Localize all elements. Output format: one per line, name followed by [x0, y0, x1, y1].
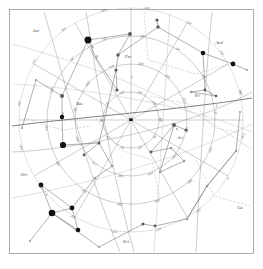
star-point: [246, 69, 248, 71]
coordinate-tick-label: 300°: [116, 202, 123, 207]
coordinate-tick-label: 170°: [31, 58, 38, 66]
star-point: [235, 150, 237, 152]
star-point: [204, 89, 207, 92]
star-point: [159, 171, 161, 173]
coordinate-tick-label: 150°: [146, 171, 154, 177]
coordinate-tick-label: 170°: [90, 160, 98, 167]
greek-star-label: γ: [131, 75, 133, 79]
coordinate-tick-label: 30°: [175, 46, 181, 52]
star-point: [170, 147, 173, 150]
greek-star-label: ζ: [216, 103, 218, 108]
star-point: [98, 246, 100, 248]
sky-map-canvas: 60°50°40°30°20°10°0°100°110°120°130°140°…: [0, 0, 263, 269]
coordinate-tick-label: 10°: [100, 117, 104, 122]
constellation-label-ce: Ce: [237, 205, 242, 210]
constellation-label-tri: Tri: [194, 93, 200, 98]
star-point: [206, 185, 209, 188]
star-point: [128, 32, 132, 36]
constellation-label-tau: Tau: [76, 101, 83, 106]
coordinate-tick-label: 200°: [144, 6, 151, 11]
star-point: [114, 68, 117, 71]
star-point: [141, 222, 144, 225]
constellation-label-ori: Ori: [21, 172, 28, 177]
constellation-label-eri: Eri: [122, 239, 130, 244]
star-point: [94, 177, 96, 179]
coordinate-tick-label: 120°: [110, 229, 117, 234]
coordinate-tick-label: 20°: [104, 134, 110, 140]
coordinate-tick-label: 40°: [137, 145, 143, 150]
greek-star-label: α: [92, 45, 94, 49]
constellation-label-aur: Aur: [32, 28, 40, 33]
coordinate-tick-label: 210°: [186, 20, 194, 27]
coordinate-tick-label: 50°: [151, 134, 157, 140]
constellation-label-per: Per: [124, 54, 132, 59]
coordinate-tick-label: 0°: [105, 100, 110, 105]
coordinate-tick-label: 210°: [108, 63, 116, 69]
star-point: [85, 37, 92, 44]
star-point: [190, 91, 193, 94]
coordinate-tick-label: 60°: [69, 55, 75, 61]
coordinate-tick-label: 240°: [238, 89, 243, 96]
star-point: [183, 160, 186, 163]
star-point: [231, 62, 236, 67]
coordinate-tick-label: 140°: [171, 153, 178, 161]
coordinate-tick-label: 150°: [19, 143, 24, 150]
star-point: [35, 79, 37, 81]
star-point: [98, 142, 101, 145]
coordinate-tick-label: 0°: [225, 176, 230, 181]
coordinate-tick-label: 130°: [69, 213, 77, 220]
star-point: [156, 25, 159, 28]
star-point: [155, 18, 158, 21]
pole-center-marker: [129, 118, 132, 121]
coordinate-tick-label: 330°: [44, 124, 49, 131]
star-point: [49, 210, 56, 217]
star-point: [239, 111, 241, 113]
star-point: [70, 206, 75, 211]
coordinate-tick-label: 220°: [218, 49, 225, 57]
coordinate-tick-label: 180°: [60, 25, 68, 32]
greek-star-label: δ: [62, 112, 64, 116]
constellation-lines: [22, 20, 247, 247]
star-point: [60, 94, 64, 98]
coordinate-tick-label: 40°: [140, 34, 146, 39]
star-point: [76, 228, 81, 233]
star-point: [154, 225, 157, 228]
star-point: [111, 165, 114, 168]
coordinate-tick-label: 200°: [84, 79, 91, 87]
greek-star-label: β: [95, 55, 98, 59]
star-point: [215, 95, 218, 98]
star-point: [201, 51, 206, 56]
coordinate-tick-label: 250°: [182, 97, 188, 105]
coordinate-tick-label: 120°: [151, 99, 158, 107]
coordinate-tick-label: 320°: [54, 159, 61, 167]
star-point: [60, 142, 66, 148]
coordinate-tick-label: 160°: [17, 99, 22, 106]
constellation-label-and: And: [214, 40, 223, 45]
star-point: [116, 53, 119, 56]
constellation-label-ari: Ari: [176, 135, 184, 140]
coordinate-tick-label: 10°: [213, 110, 217, 115]
coordinate-tick-label: 180°: [74, 135, 80, 143]
star-point: [21, 127, 23, 129]
coordinate-tick-label: 100°: [119, 89, 127, 95]
coordinate-tick-label: 60°: [158, 118, 162, 123]
star-point: [150, 151, 153, 154]
coordinate-tick-label: 190°: [100, 8, 107, 13]
star-point: [29, 240, 31, 242]
coordinate-tick-label: 250°: [240, 133, 245, 140]
coordinate-tick-label: 290°: [153, 198, 161, 204]
star-chart-figure: 60°50°40°30°20°10°0°100°110°120°130°140°…: [0, 0, 263, 269]
star-point: [83, 154, 86, 157]
coordinate-tick-label: 310°: [80, 187, 88, 194]
coordinate-tick-label: 280°: [186, 178, 194, 185]
greek-star-label: η: [176, 127, 178, 131]
star-point: [186, 218, 189, 221]
